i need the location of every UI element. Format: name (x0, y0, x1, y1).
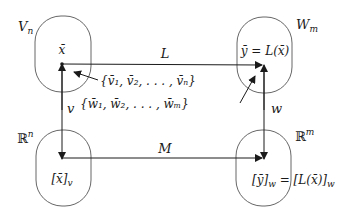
basis-w-label: {w̄₁, w̄₂, . . . , w̄ₘ} (80, 97, 189, 111)
basis-v-label: {v̄₁, v̄₂, . . . , v̄ₙ} (100, 74, 196, 88)
point-x (60, 62, 64, 66)
basis-w-pointer (240, 76, 255, 103)
label-Rn: ℝn (17, 129, 34, 146)
element-x-coords: [x̄]v (51, 172, 72, 188)
basis-v-pointer (74, 72, 98, 80)
edge-label-L: L (160, 46, 170, 61)
edge-label-w: w (271, 101, 282, 116)
commutative-diagram: Vn Wm ℝn ℝm x̄ ȳ = L(x̄) [x̄]v [ȳ]w = [L… (0, 0, 354, 219)
element-y: ȳ = L(x̄) (240, 44, 290, 58)
space-blob-bottom-left (36, 130, 91, 206)
edge-label-v: v (67, 101, 75, 116)
element-y-coords: [ȳ]w = [L(x̄)]w (252, 173, 335, 189)
label-Wm: Wm (296, 17, 318, 34)
edge-label-M: M (157, 141, 172, 156)
arrow-L (62, 64, 262, 65)
element-x: x̄ (59, 43, 66, 57)
label-Rm: ℝm (295, 127, 314, 144)
label-Vn: Vn (18, 19, 33, 36)
